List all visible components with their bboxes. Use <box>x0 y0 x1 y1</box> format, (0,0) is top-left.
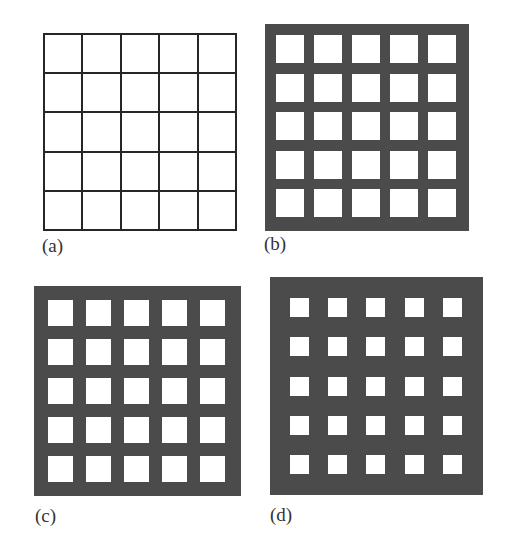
grid-hole <box>276 112 304 140</box>
grid-hole <box>86 339 111 365</box>
grid-hole <box>162 417 187 443</box>
grid-line-horizontal <box>43 229 237 231</box>
grid-hole <box>428 189 456 217</box>
grid-hole <box>314 35 342 63</box>
grid-line-vertical <box>43 33 45 231</box>
grid-hole <box>405 377 424 396</box>
panel-label-b: (b) <box>264 234 286 254</box>
grid-line-horizontal <box>43 111 237 113</box>
grid-hole <box>328 298 347 317</box>
grid-hole <box>352 112 380 140</box>
grid-hole <box>366 298 385 317</box>
grid-hole <box>48 456 73 482</box>
grid-hole <box>290 377 309 396</box>
grid-hole <box>390 112 418 140</box>
grid-hole <box>443 416 462 435</box>
grid-hole <box>290 298 309 317</box>
grid-hole <box>86 417 111 443</box>
grid-hole <box>443 377 462 396</box>
grid-hole <box>443 298 462 317</box>
grid-hole <box>390 151 418 179</box>
grid-hole <box>124 300 149 326</box>
grid-line-vertical <box>197 33 199 231</box>
grid-hole <box>86 456 111 482</box>
grid-hole <box>124 378 149 404</box>
grid-hole <box>428 151 456 179</box>
grid-line-horizontal <box>43 72 237 74</box>
grid-hole <box>200 378 225 404</box>
grid-hole <box>366 337 385 356</box>
grid-hole <box>405 337 424 356</box>
grid-hole <box>314 189 342 217</box>
grid-hole <box>405 298 424 317</box>
grid-hole <box>428 112 456 140</box>
grid-hole <box>314 112 342 140</box>
grid-hole <box>328 416 347 435</box>
panel-d <box>270 277 483 495</box>
grid-hole <box>48 378 73 404</box>
grid-line-horizontal <box>43 151 237 153</box>
panel-label-c: (c) <box>35 506 56 526</box>
grid-hole <box>276 74 304 102</box>
grid-hole <box>405 455 424 474</box>
grid-hole <box>328 337 347 356</box>
grid-hole <box>443 337 462 356</box>
grid-hole <box>428 35 456 63</box>
grid-hole <box>428 74 456 102</box>
grid-hole <box>328 377 347 396</box>
panel-label-a: (a) <box>42 236 63 256</box>
grid-line-horizontal <box>43 190 237 192</box>
grid-line-vertical <box>81 33 83 231</box>
grid-line-horizontal <box>43 33 237 35</box>
grid-hole <box>276 35 304 63</box>
grid-hole <box>290 455 309 474</box>
grid-hole <box>328 455 347 474</box>
grid-hole <box>48 339 73 365</box>
grid-hole <box>124 417 149 443</box>
grid-hole <box>366 416 385 435</box>
grid-hole <box>314 74 342 102</box>
grid-hole <box>124 339 149 365</box>
grid-hole <box>162 456 187 482</box>
grid-hole <box>86 378 111 404</box>
grid-hole <box>366 377 385 396</box>
grid-hole <box>390 74 418 102</box>
grid-line-vertical <box>235 33 237 231</box>
grid-hole <box>352 189 380 217</box>
grid-hole <box>443 455 462 474</box>
panel-a <box>43 33 237 231</box>
grid-hole <box>290 337 309 356</box>
grid-hole <box>390 35 418 63</box>
grid-hole <box>200 456 225 482</box>
panel-label-d: (d) <box>270 505 292 525</box>
grid-hole <box>162 378 187 404</box>
grid-hole <box>290 416 309 435</box>
grid-hole <box>48 300 73 326</box>
grid-hole <box>390 189 418 217</box>
grid-hole <box>162 300 187 326</box>
grid-line-vertical <box>120 33 122 231</box>
grid-hole <box>200 417 225 443</box>
grid-hole <box>162 339 187 365</box>
grid-hole <box>405 416 424 435</box>
grid-hole <box>276 151 304 179</box>
grid-hole <box>200 339 225 365</box>
grid-hole <box>124 456 149 482</box>
grid-hole <box>314 151 342 179</box>
panel-b <box>265 24 469 231</box>
grid-hole <box>276 189 304 217</box>
grid-hole <box>86 300 111 326</box>
grid-hole <box>200 300 225 326</box>
grid-line-vertical <box>158 33 160 231</box>
panel-c <box>34 286 241 496</box>
grid-hole <box>366 455 385 474</box>
grid-hole <box>352 35 380 63</box>
grid-hole <box>352 74 380 102</box>
grid-hole <box>352 151 380 179</box>
grid-hole <box>48 417 73 443</box>
